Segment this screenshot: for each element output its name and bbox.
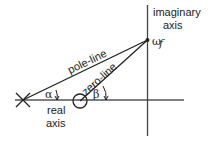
alpha-arc-icon	[55, 90, 59, 100]
imaginary-axis-label-line1: imaginary	[153, 6, 201, 18]
omega-subscript: f	[158, 37, 165, 50]
beta-label: β	[93, 88, 99, 101]
beta-arc-icon	[103, 86, 108, 100]
imaginary-axis-label-line2: axis	[163, 19, 183, 31]
real-axis-label-line1: real	[47, 104, 65, 116]
diagram-canvas: imaginary axis ω f pole-line zero-line α…	[0, 0, 214, 142]
alpha-label: α	[45, 88, 53, 101]
omega-point	[146, 38, 150, 42]
pole-zero-diagram: imaginary axis ω f pole-line zero-line α…	[0, 0, 214, 142]
real-axis-label-line2: axis	[46, 117, 66, 129]
